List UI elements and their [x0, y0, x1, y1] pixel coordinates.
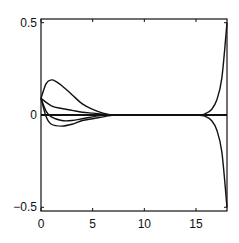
x-tick-label: 5 [89, 217, 96, 231]
series-curve-4 [41, 98, 227, 126]
x-tick-label: 0 [38, 217, 45, 231]
y-tick-label: −0.5 [13, 200, 37, 214]
plot-lines [41, 23, 227, 208]
y-tick-label: 0 [30, 108, 37, 122]
line-chart: 051015 0.50−0.5 [0, 0, 239, 243]
series-curve-6-lower-boundary [41, 115, 227, 207]
x-tick-label: 10 [138, 217, 152, 231]
x-axis-tick-labels: 051015 [38, 217, 203, 231]
series-curve-2 [41, 98, 227, 115]
x-tick-label: 15 [189, 217, 203, 231]
series-curve-5-upper-boundary [41, 23, 227, 115]
y-tick-label: 0.5 [20, 16, 37, 30]
y-axis-tick-labels: 0.50−0.5 [13, 16, 37, 215]
